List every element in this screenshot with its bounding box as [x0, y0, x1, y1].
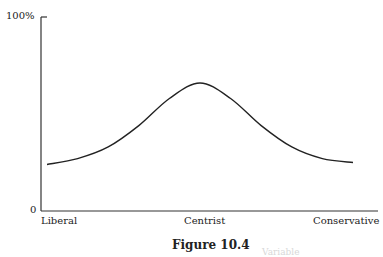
- x-label-centrist: Centrist: [184, 215, 225, 226]
- x-label-conservative: Conservative: [313, 215, 379, 226]
- y-tick-0: 0: [30, 204, 36, 215]
- figure-caption: Figure 10.4: [172, 238, 250, 252]
- x-label-liberal: Liberal: [41, 215, 77, 226]
- y-tick-100: 100%: [6, 10, 35, 21]
- distribution-curve: [47, 83, 353, 164]
- bleed-through-text: Variable: [262, 247, 300, 257]
